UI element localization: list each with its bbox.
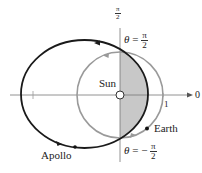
equals-sign: =: [132, 144, 138, 156]
theta-bottom-label: θ = − π 2: [124, 142, 157, 161]
apollo-marker: [73, 145, 77, 149]
orbit-diagram: π 2 θ = π 2 θ = − π 2 Sun Earth Apollo 1…: [0, 0, 202, 173]
earth-marker: [145, 127, 149, 131]
apollo-label: Apollo: [41, 150, 72, 161]
sun-marker: [116, 91, 124, 99]
equals-sign: =: [132, 33, 138, 45]
fraction-denominator: 2: [150, 152, 157, 161]
fraction-denominator: 2: [141, 41, 148, 50]
polar-axis-arrow-icon: [187, 93, 193, 98]
tick-label-one: 1: [164, 100, 169, 109]
theta-top-label: θ = π 2: [124, 31, 148, 50]
theta-symbol: θ: [124, 33, 129, 45]
minus-sign: −: [141, 144, 147, 156]
theta-symbol: θ: [124, 144, 129, 156]
polar-axis-label: 0: [195, 90, 200, 100]
vertical-axis-label: π 2: [115, 6, 121, 21]
sun-label: Sun: [99, 78, 116, 89]
fraction-denominator: 2: [115, 14, 121, 21]
earth-label: Earth: [154, 123, 178, 134]
